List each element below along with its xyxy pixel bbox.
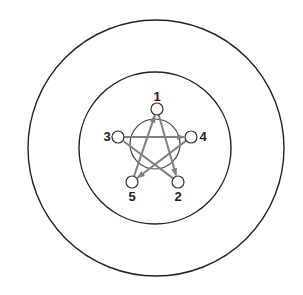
- node-label: 1: [153, 89, 160, 104]
- node-circle: [126, 176, 138, 188]
- node-label: 4: [199, 129, 207, 144]
- node-3: 3: [103, 129, 124, 144]
- node-label: 3: [103, 129, 110, 144]
- node-label: 2: [174, 189, 181, 204]
- node-circle: [112, 131, 124, 143]
- node-5: 5: [126, 176, 138, 204]
- node-circle: [185, 131, 197, 143]
- nodes-group: 12345: [103, 89, 207, 204]
- node-circle: [172, 176, 184, 188]
- node-4: 4: [185, 129, 207, 144]
- edge-2-to-3: [124, 141, 174, 178]
- outer-circle: [28, 20, 284, 276]
- network-diagram: 12345: [0, 0, 303, 295]
- node-2: 2: [172, 176, 184, 204]
- node-label: 5: [128, 189, 135, 204]
- node-circle: [151, 103, 163, 115]
- node-1: 1: [151, 89, 163, 115]
